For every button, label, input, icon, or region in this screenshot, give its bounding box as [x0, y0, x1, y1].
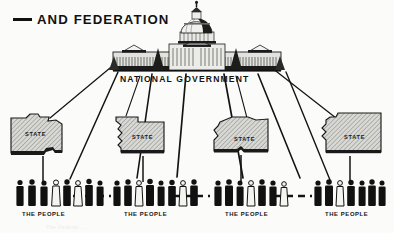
title-text: AND FEDERATION: [37, 12, 169, 27]
state-label-2: STATE: [132, 134, 153, 140]
people-group-4: [314, 179, 385, 206]
state-blocks-group: [11, 113, 381, 155]
people-label-1: THE PEOPLE: [22, 211, 65, 217]
title-dash-icon: [13, 18, 32, 21]
state-to-people-stems: [43, 155, 350, 182]
people-group-2: [113, 179, 197, 206]
connector-lines-layer: [0, 0, 394, 233]
people-group-3: [214, 179, 288, 206]
state-label-1: STATE: [25, 131, 46, 137]
people-label-2: THE PEOPLE: [124, 211, 167, 217]
state-block-3: [214, 117, 268, 153]
people-figures-layer: [16, 179, 385, 206]
national-to-people-lines: [70, 72, 330, 180]
national-government-label: NATIONAL GOVERNMENT: [120, 74, 249, 84]
ghost-caption: The Federal ...: [46, 224, 86, 230]
federation-diagram: AND FEDERATION NATIONAL GOVERNMENT STATE…: [0, 0, 394, 233]
state-label-3: STATE: [234, 136, 255, 142]
people-label-3: THE PEOPLE: [225, 211, 268, 217]
people-group-1: [16, 179, 103, 206]
people-label-4: THE PEOPLE: [325, 211, 368, 217]
page-title: AND FEDERATION: [13, 12, 169, 27]
state-label-4: STATE: [344, 134, 365, 140]
